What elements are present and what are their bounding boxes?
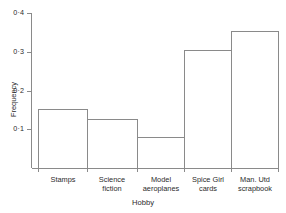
y-axis-title: Frequency (9, 82, 18, 117)
x-category-label-man-utd-scrapbook: Man. Utd scrapbook (226, 175, 284, 194)
bar-spice-girl-cards (185, 51, 232, 169)
y-tick-label-0.1: 0·1 (4, 125, 24, 133)
y-tick-label-0.3: 0·3 (4, 48, 24, 56)
y-tick-label-0.4: 0·4 (4, 9, 24, 17)
bar-chart: 0·4 0·3 0·2 0·1 Frequency Stamps Science… (0, 0, 286, 213)
x-axis-title: Hobby (0, 198, 286, 207)
bar-science-fiction (88, 120, 138, 169)
bar-stamps (39, 110, 88, 169)
bar-man-utd-scrapbook (232, 32, 279, 169)
bar-model-aeroplanes (138, 138, 185, 169)
